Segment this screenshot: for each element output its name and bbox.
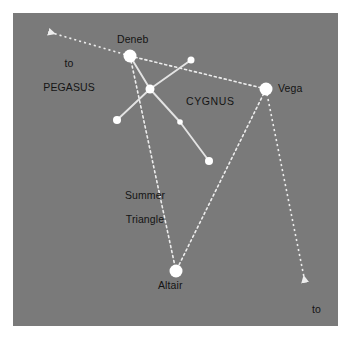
star-eta-cygni <box>177 119 183 125</box>
star-label-altair: Altair <box>158 279 183 291</box>
line-sadr-delta <box>117 89 150 120</box>
to-pegasus-line-1: to <box>65 57 74 69</box>
to-antares-line-1: to <box>312 303 321 315</box>
star-vega <box>260 83 273 96</box>
star-altair <box>170 265 183 278</box>
direction-label-pegasus: to PEGASUS <box>24 45 96 105</box>
to-pegasus-line-2: PEGASUS <box>43 81 94 93</box>
star-sadr <box>146 85 155 94</box>
star-label-vega: Vega <box>278 82 302 94</box>
sky-background-panel: Deneb Vega Altair CYGNUS Summer Triangle… <box>13 13 338 326</box>
asterism-label-summer-triangle: Summer Triangle <box>106 177 166 237</box>
summer-triangle-line-1: Summer <box>125 189 165 201</box>
star-label-deneb: Deneb <box>117 33 148 45</box>
star-markers <box>113 50 273 278</box>
line-eta-albireo <box>180 122 209 161</box>
line-deneb-vega <box>130 56 266 89</box>
star-deneb <box>124 50 137 63</box>
constellation-label-cygnus: CYGNUS <box>186 95 235 107</box>
star-chart-figure: Deneb Vega Altair CYGNUS Summer Triangle… <box>0 0 348 343</box>
line-sadr-epsilon <box>150 60 191 89</box>
arrow-to-antares <box>266 89 305 282</box>
star-epsilon-cygni <box>188 57 195 64</box>
line-sadr-eta <box>150 89 180 122</box>
star-albireo <box>205 157 213 165</box>
summer-triangle-line-2: Triangle <box>126 213 164 225</box>
line-vega-altair <box>176 89 266 271</box>
direction-label-antares: to Antares <box>251 291 321 326</box>
star-delta-cygni <box>113 116 121 124</box>
